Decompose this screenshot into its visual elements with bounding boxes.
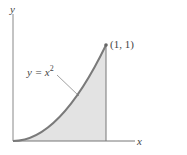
x-axis-label: x: [136, 135, 142, 147]
curve-label: y = x2: [26, 64, 54, 78]
point-marker: [104, 43, 108, 47]
point-label: (1, 1): [110, 38, 134, 51]
y-axis-label: y: [9, 3, 15, 15]
curve-label-exponent: 2: [50, 64, 54, 73]
parabola-area-diagram: y x y = x2 (1, 1): [0, 0, 187, 155]
curve-label-text: y = x: [26, 66, 50, 78]
leader-line: [57, 75, 79, 96]
shaded-region: [13, 45, 106, 141]
